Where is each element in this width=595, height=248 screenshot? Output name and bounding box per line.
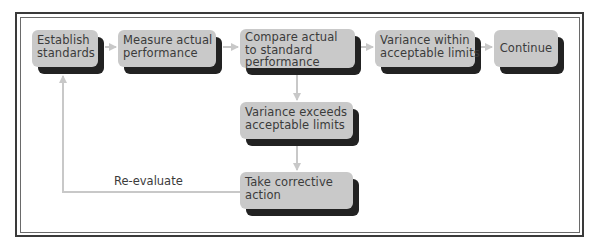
node-text: standards — [37, 47, 93, 60]
node-text: performance — [245, 56, 350, 69]
node-continue: Continue — [494, 30, 558, 67]
feedback-label-reevaluate: Re-evaluate — [114, 174, 183, 188]
node-text: Measure actual — [123, 34, 211, 47]
node-text: Variance within — [380, 34, 470, 47]
node-text: Take corrective — [245, 176, 348, 189]
node-text: acceptable limits — [245, 119, 348, 132]
node-variance-exceeds-limits: Variance exceeds acceptable limits — [240, 102, 353, 139]
node-text: acceptable limits — [380, 47, 470, 60]
node-text: Variance exceeds — [245, 106, 348, 119]
node-text: Establish — [37, 34, 93, 47]
node-text: Continue — [500, 42, 553, 55]
node-variance-within-limits: Variance within acceptable limits — [375, 30, 475, 67]
node-take-corrective-action: Take corrective action — [240, 172, 353, 209]
node-establish-standards: Establish standards — [32, 30, 98, 67]
node-text: action — [245, 189, 348, 202]
node-compare-actual-to-standard: Compare actual to standard performance — [240, 29, 355, 68]
node-measure-actual-performance: Measure actual performance — [118, 30, 216, 67]
node-text: Compare actual — [245, 31, 350, 44]
node-text: performance — [123, 47, 211, 60]
